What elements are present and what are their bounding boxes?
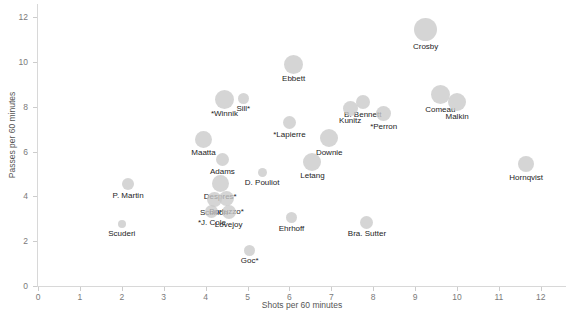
x-tick-mark	[541, 287, 542, 291]
x-axis-title: Shots per 60 minutes	[38, 300, 566, 310]
data-point-bubble[interactable]	[244, 245, 255, 256]
x-tick-mark	[38, 287, 39, 291]
data-point-bubble[interactable]	[343, 101, 358, 116]
data-point-bubble[interactable]	[431, 85, 450, 104]
data-point-label: D. Pouliot	[245, 179, 280, 187]
data-point-bubble[interactable]	[360, 216, 373, 229]
data-point-label: Goc*	[241, 257, 259, 265]
data-point-label: Letang	[300, 172, 324, 180]
data-point-bubble[interactable]	[414, 18, 437, 41]
data-point-bubble[interactable]	[205, 205, 218, 218]
x-axis-line	[37, 286, 566, 287]
x-tick-mark	[331, 287, 332, 291]
x-tick-mark	[373, 287, 374, 291]
y-tick-mark	[33, 107, 37, 108]
y-tick-mark	[33, 286, 37, 287]
data-point-label: Kunitz	[339, 117, 361, 125]
data-point-bubble[interactable]	[212, 175, 229, 192]
data-point-label: Hornqvist	[509, 174, 543, 182]
data-point-label: Maatta	[191, 149, 215, 157]
data-point-bubble[interactable]	[118, 220, 126, 228]
x-tick-mark	[457, 287, 458, 291]
plot-area: CrosbyEbbett*WinnikSill*ComeauMalkinB. B…	[38, 4, 566, 286]
data-point-bubble[interactable]	[356, 95, 370, 109]
data-point-bubble[interactable]	[238, 93, 249, 104]
x-tick-mark	[206, 287, 207, 291]
data-point-bubble[interactable]	[222, 205, 236, 219]
data-point-bubble[interactable]	[376, 106, 391, 121]
data-point-label: *Perron	[370, 123, 397, 131]
x-tick-mark	[415, 287, 416, 291]
data-point-bubble[interactable]	[320, 129, 338, 147]
data-point-label: Ehrhoff	[279, 225, 305, 233]
y-tick-label: 2	[0, 237, 28, 246]
data-point-label: P. Martin	[113, 192, 144, 200]
x-tick-mark	[499, 287, 500, 291]
x-tick-mark	[164, 287, 165, 291]
scatter-chart: 0246810120123456789101112 CrosbyEbbett*W…	[0, 0, 570, 313]
data-point-label: Sill*	[236, 105, 250, 113]
data-point-label: *Winnik	[211, 110, 238, 118]
data-point-bubble[interactable]	[286, 212, 297, 223]
x-tick-mark	[248, 287, 249, 291]
y-tick-mark	[33, 17, 37, 18]
y-tick-label: 0	[0, 282, 28, 291]
data-point-bubble[interactable]	[219, 191, 234, 206]
y-tick-mark	[33, 196, 37, 197]
data-point-label: *Lapierre	[273, 131, 305, 139]
data-point-label: Malkin	[445, 113, 468, 121]
data-point-label: Ebbett	[282, 75, 305, 83]
data-point-bubble[interactable]	[215, 90, 234, 109]
x-tick-mark	[80, 287, 81, 291]
data-point-bubble[interactable]	[284, 55, 303, 74]
data-point-bubble[interactable]	[216, 153, 229, 166]
data-point-label: Crosby	[413, 43, 438, 51]
x-tick-mark	[122, 287, 123, 291]
data-point-label: Bra. Sutter	[348, 230, 386, 238]
data-point-bubble[interactable]	[283, 116, 296, 129]
y-axis-title: Passes per 60 minutes	[7, 60, 17, 210]
data-point-bubble[interactable]	[303, 153, 321, 171]
data-point-bubble[interactable]	[122, 178, 134, 190]
x-tick-mark	[289, 287, 290, 291]
y-tick-mark	[33, 152, 37, 153]
y-tick-mark	[33, 241, 37, 242]
y-tick-mark	[33, 62, 37, 63]
data-point-label: Scuderi	[108, 230, 135, 238]
data-point-label: Lovejoy	[215, 221, 243, 229]
data-point-bubble[interactable]	[195, 131, 212, 148]
data-point-bubble[interactable]	[448, 93, 466, 111]
data-point-bubble[interactable]	[518, 156, 534, 172]
data-point-bubble[interactable]	[258, 168, 267, 177]
data-point-label: Downie	[316, 149, 343, 157]
y-tick-label: 12	[0, 13, 28, 22]
